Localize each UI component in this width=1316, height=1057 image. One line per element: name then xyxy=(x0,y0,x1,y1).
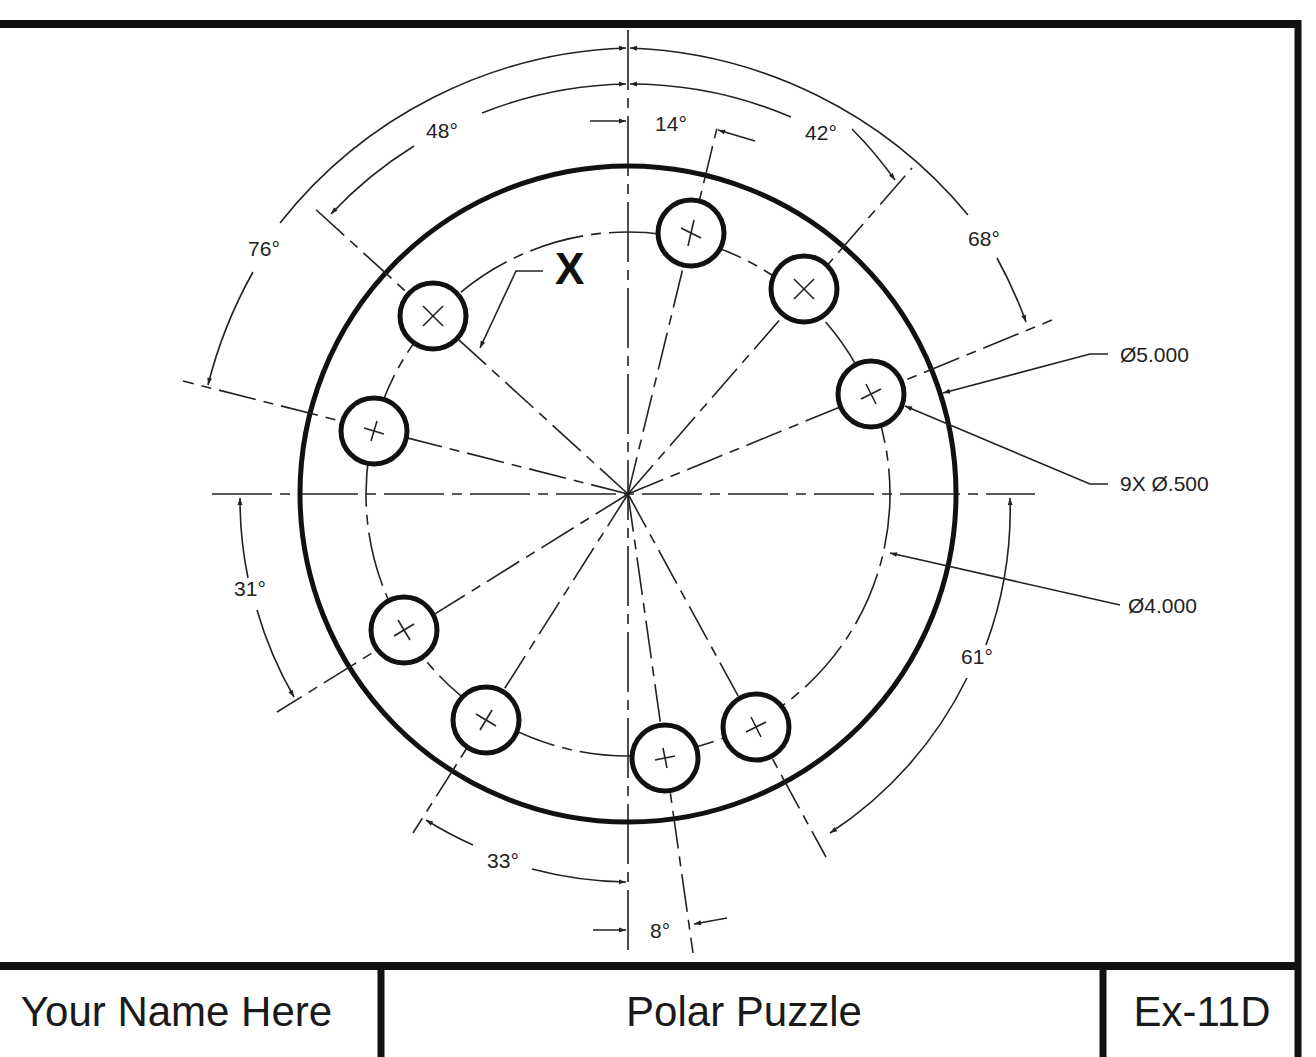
radial-lines xyxy=(183,124,1052,953)
dim-61: 61° xyxy=(961,645,993,668)
border-frame xyxy=(0,20,1298,1057)
polar-drawing: X 14° 48° 42° 76° 68° 31° 61° 33° 8° Ø5.… xyxy=(0,0,1316,1057)
callout-hole-spec: 9X Ø.500 xyxy=(1120,472,1209,495)
dimension-arcs xyxy=(208,48,1026,930)
callout-outer-diameter: Ø5.000 xyxy=(1120,343,1189,366)
x-leader xyxy=(480,271,543,348)
callouts: Ø5.000 9X Ø.500 Ø4.000 xyxy=(1120,343,1209,617)
title-block-exercise: Ex-11D xyxy=(1107,966,1297,1057)
holes xyxy=(341,200,904,791)
dim-14: 14° xyxy=(655,112,687,135)
dim-76: 76° xyxy=(248,237,280,260)
angle-dimensions: 14° 48° 42° 76° 68° 31° 61° 33° 8° xyxy=(234,112,1000,942)
dim-68: 68° xyxy=(968,227,1000,250)
title-block-name: Your Name Here xyxy=(0,966,367,1057)
dim-8: 8° xyxy=(650,919,670,942)
dim-31: 31° xyxy=(234,577,266,600)
title-block-title: Polar Puzzle xyxy=(385,966,1103,1057)
unknown-angle-label: X xyxy=(555,244,584,293)
dim-42: 42° xyxy=(805,121,837,144)
callout-leaders xyxy=(890,354,1120,605)
dim-33: 33° xyxy=(487,849,519,872)
dim-48: 48° xyxy=(426,119,458,142)
callout-bolt-circle: Ø4.000 xyxy=(1128,594,1197,617)
